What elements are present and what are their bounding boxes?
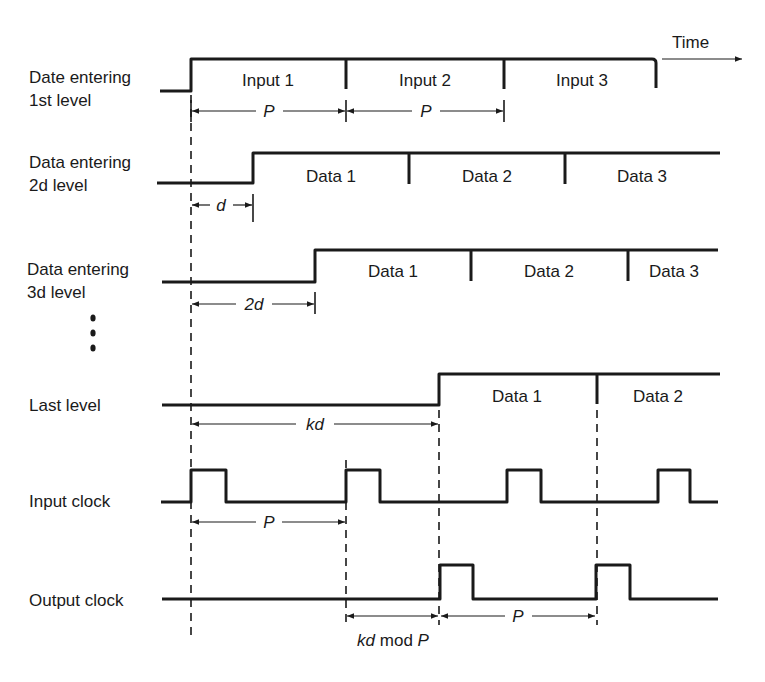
time-axis-label: Time [672,33,709,52]
segment-label: Data 2 [633,387,683,406]
time-axis: Time [662,33,742,59]
dimension-label-2d: 2d [244,295,264,314]
dimension-label-kd-mod-p: kd mod P [357,631,430,650]
signal-level3: Data entering 3d level Data 1 Data 2 Dat… [27,250,718,314]
segment-label: Data 2 [524,262,574,281]
signal-level2: Data entering 2d level Data 1 Data 2 Dat… [29,153,720,222]
continuation-marker [90,314,95,351]
segment-label: Data 1 [306,167,356,186]
dimension-label-d: d [216,196,226,215]
dimension-label-p: P [512,607,524,626]
signal-label-line1: Data entering [27,260,129,279]
segment-label: Input 2 [399,71,451,90]
segment-label: Data 3 [617,167,667,186]
signal-label-line1: Input clock [29,492,111,511]
dimension-label-p: P [263,102,275,121]
signal-label-line1: Output clock [29,591,124,610]
signal-last-level: Last level Data 1 Data 2 kd [29,374,720,434]
dimension-label-p: P [420,102,432,121]
signal-output-clock: Output clock P kd mod P [29,565,718,650]
signal-label-line1: Data entering [29,153,131,172]
signal-label-line2: 1st level [29,91,91,110]
dimension-label-p: P [263,513,275,532]
signal-label-line2: 2d level [29,176,88,195]
segment-label: Input 1 [242,71,294,90]
signal-waveform [162,565,718,599]
signal-label-line1: Last level [29,396,101,415]
signal-label-line1: Date entering [29,68,131,87]
dimension-label-kd: kd [306,415,325,434]
signal-input-clock: Input clock P [29,470,718,532]
segment-label: Data 2 [462,167,512,186]
segment-label: Data 1 [368,262,418,281]
segment-label: Data 3 [649,262,699,281]
signal-label-line2: 3d level [27,283,86,302]
timing-diagram: Time Date entering 1st level Input 1 Inp… [0,0,765,682]
signal-waveform [162,250,718,282]
segment-label: Data 1 [492,387,542,406]
segment-label: Input 3 [556,71,608,90]
signal-level1: Date entering 1st level Input 1 Input 2 … [29,59,656,122]
